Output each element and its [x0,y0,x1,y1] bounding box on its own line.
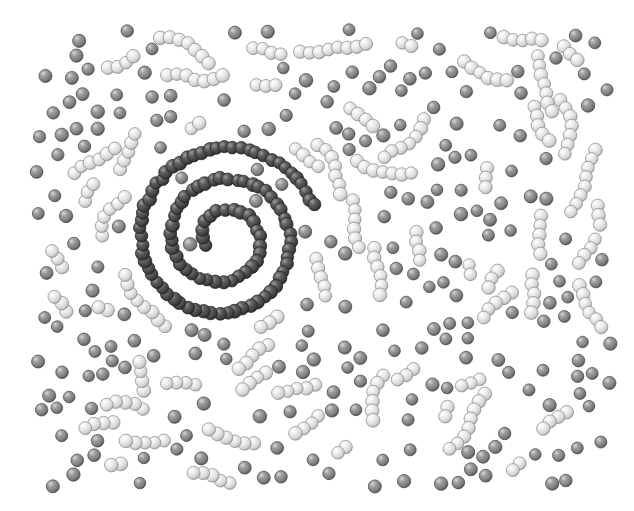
particle-scene [0,0,634,511]
particle-canvas [0,0,634,511]
simulation-figure: Spiral-templated colloidal assembly snap… [0,0,634,511]
